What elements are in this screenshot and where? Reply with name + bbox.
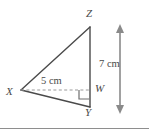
vertex-label-x: X	[6, 86, 13, 97]
height-arrow-head-bottom	[116, 105, 124, 114]
geometry-figure: Z X Y W 5 cm 7 cm	[0, 0, 149, 137]
vertex-label-z: Z	[86, 8, 92, 19]
right-angle-marker	[79, 90, 89, 99]
vertex-label-w: W	[95, 83, 104, 94]
measurement-label-base: 5 cm	[41, 75, 62, 86]
triangle-diagram-svg	[0, 0, 149, 137]
vertex-label-y: Y	[85, 107, 91, 118]
bottom-divider	[0, 128, 149, 129]
measurement-label-height: 7 cm	[99, 58, 120, 69]
height-arrow-head-top	[116, 24, 124, 33]
